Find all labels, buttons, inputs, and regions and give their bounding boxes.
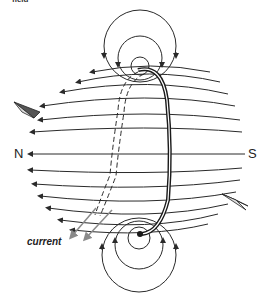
compass-right-icon <box>222 194 248 210</box>
current-label: current <box>27 236 61 247</box>
magnetic-field-diagram <box>0 0 269 301</box>
north-pole-label: N <box>14 146 23 161</box>
bottom-field-circles <box>102 218 176 292</box>
coil-loop <box>95 69 170 237</box>
field-lines <box>30 66 245 233</box>
south-pole-label: S <box>248 146 257 161</box>
compass-left-icon <box>14 102 40 118</box>
